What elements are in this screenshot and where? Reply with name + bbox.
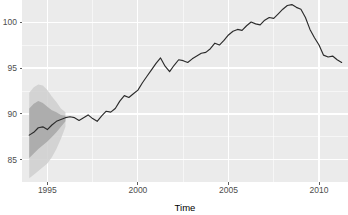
y-tick-label: 85	[8, 155, 18, 165]
x-axis-ticks: 1995200020052010	[38, 182, 329, 195]
x-tick-label: 2000	[128, 185, 147, 195]
y-tick-label: 100	[3, 17, 17, 27]
x-tick-label: 2005	[219, 185, 238, 195]
x-tick-label: 1995	[38, 185, 57, 195]
x-axis-title: Time	[175, 202, 196, 213]
y-axis-ticks: 859095100	[3, 17, 22, 165]
y-tick-label: 90	[8, 109, 18, 119]
chart-container: 859095100 1995200020052010 Time	[0, 0, 348, 215]
y-tick-label: 95	[8, 63, 18, 73]
x-tick-label: 2010	[310, 185, 329, 195]
time-series-chart: 859095100 1995200020052010 Time	[0, 0, 348, 215]
